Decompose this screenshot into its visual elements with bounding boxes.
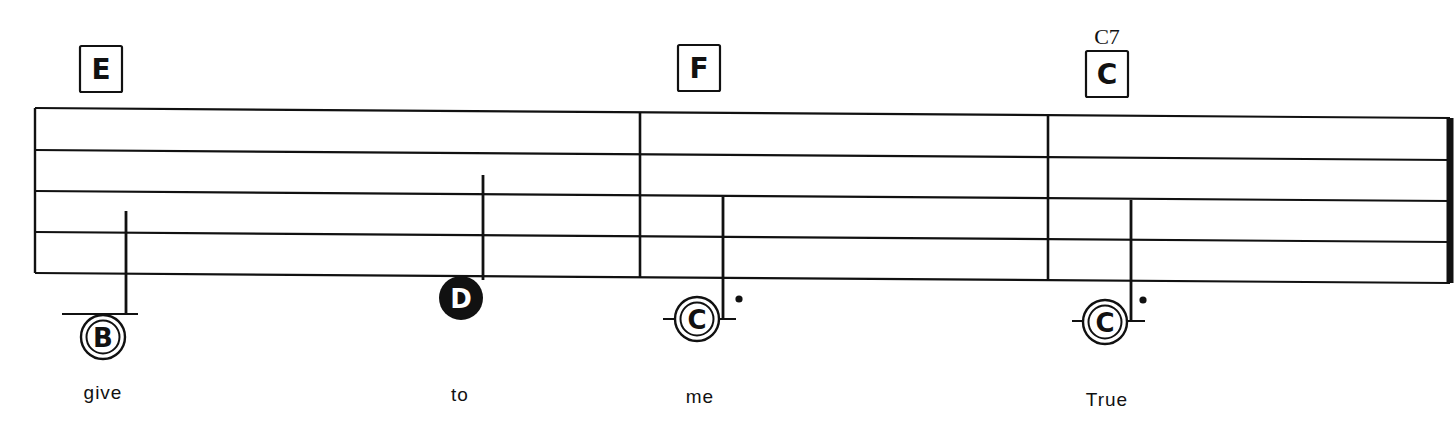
- dot-icon: [1139, 296, 1146, 303]
- lyric-word: to: [451, 384, 469, 405]
- dot-icon: [735, 295, 742, 302]
- chord-symbols: EFCC7: [80, 24, 1128, 97]
- staff-line: [35, 191, 1450, 201]
- chord-letter: F: [689, 52, 708, 85]
- lyrics: givetomeTrue: [84, 382, 1129, 410]
- chord-letter: E: [91, 53, 110, 86]
- lyric-word: give: [84, 382, 123, 403]
- notes: BDCC: [62, 175, 1147, 359]
- chord-f: F: [678, 45, 720, 91]
- note-c: C: [663, 197, 743, 341]
- note-letter: B: [93, 323, 113, 353]
- chord-letter: C: [1097, 58, 1118, 91]
- note-letter: C: [1095, 308, 1114, 338]
- lyric-word: True: [1086, 389, 1128, 410]
- note-d: D: [439, 175, 483, 320]
- note-letter: C: [687, 305, 706, 335]
- note-letter: D: [450, 284, 472, 314]
- lyric-word: me: [686, 386, 714, 407]
- music-sheet: EFCC7 BDCC givetomeTrue: [0, 0, 1454, 426]
- staff-line: [35, 108, 1450, 118]
- staff-line: [35, 273, 1450, 283]
- chord-c: CC7: [1086, 24, 1128, 97]
- staff-line: [35, 232, 1450, 242]
- chord-e: E: [80, 46, 122, 92]
- staff: [35, 108, 1450, 283]
- staff-line: [35, 150, 1450, 160]
- note-c: C: [1072, 200, 1147, 344]
- chord-extension-label: C7: [1094, 24, 1120, 49]
